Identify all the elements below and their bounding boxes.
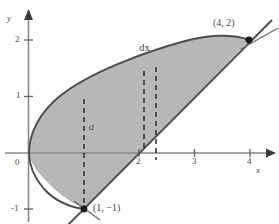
strip-width-label: dx: [139, 42, 150, 53]
y-tick-label-2: 2: [15, 35, 20, 44]
x-axis-arrow: [266, 149, 276, 158]
figure-canvas: y x 0 2 1 -1 2 3 4 (4, 2) (1, −1) dx a: [0, 0, 279, 224]
plot-svg: [0, 0, 279, 224]
x-axis-label: x: [256, 166, 260, 175]
x-tick-label-2: 2: [136, 157, 141, 166]
point-marker-4-2: [246, 37, 253, 44]
x-tick-label-3: 3: [192, 157, 197, 166]
point-label-4-2: (4, 2): [213, 18, 235, 28]
y-axis-label: y: [7, 14, 11, 23]
x-tick-label-4: 4: [247, 157, 252, 166]
y-tick-label-1: 1: [16, 91, 21, 100]
point-marker-1-minus1: [81, 206, 88, 213]
shaded-region: [29, 36, 250, 209]
height-label-a: a: [89, 122, 94, 132]
y-axis-arrow: [24, 9, 33, 20]
point-label-1-minus1: (1, −1): [93, 203, 120, 213]
y-tick-label-minus-1: -1: [11, 204, 19, 213]
origin-label: 0: [15, 158, 20, 167]
